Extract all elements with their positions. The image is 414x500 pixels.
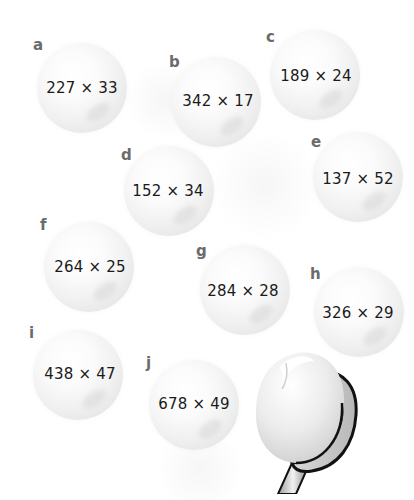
- problem-letter-a: a: [33, 38, 43, 53]
- problem-letter-g: g: [196, 244, 207, 259]
- problem-expression-h: 326 × 29: [298, 306, 414, 321]
- problem-expression-e: 137 × 52: [298, 172, 414, 187]
- problem-expression-d: 152 × 34: [108, 184, 228, 199]
- problem-letter-i: i: [29, 326, 34, 341]
- problem-expression-a: 227 × 33: [22, 81, 142, 96]
- problem-expression-g: 284 × 28: [183, 284, 303, 299]
- problem-letter-f: f: [40, 218, 47, 233]
- problem-letter-h: h: [310, 267, 321, 282]
- problem-expression-c: 189 × 24: [256, 69, 376, 84]
- problem-letter-c: c: [266, 30, 275, 45]
- problem-letter-e: e: [311, 135, 321, 150]
- problem-letter-d: d: [121, 148, 132, 163]
- problem-letter-j: j: [146, 356, 151, 371]
- problem-expression-j: 678 × 49: [134, 397, 254, 412]
- problem-expression-f: 264 × 25: [30, 260, 150, 275]
- problem-expression-i: 438 × 47: [20, 367, 140, 382]
- problem-letter-b: b: [169, 55, 180, 70]
- problem-expression-b: 342 × 17: [158, 94, 278, 109]
- table-tennis-paddle-icon: [250, 345, 370, 494]
